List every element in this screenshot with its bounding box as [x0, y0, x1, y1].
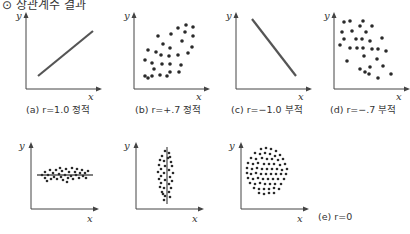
caption-c: (c) r=−1.0 부적 [231, 102, 303, 116]
plot-b-svg: y x [130, 12, 210, 92]
plot-e2-svg: y x [132, 142, 204, 212]
x-axis-label: x [396, 91, 402, 102]
plot-b-positive-moderate: y x [130, 12, 210, 92]
x-axis-label: x [88, 91, 94, 102]
plot-d-negative-moderate: y x [330, 12, 410, 92]
y-axis-label: y [123, 140, 130, 151]
caption-a: (a) r=1.0 정적 [26, 102, 90, 116]
plot-e-horizontal-band: y x [27, 142, 99, 212]
caption-d: (d) r=−.7 부적 [330, 102, 396, 116]
section-header: ⊙ 상관계수 결과 [2, 0, 86, 12]
plot-a-svg: y x [22, 12, 102, 92]
x-axis-label: x [196, 91, 202, 102]
plot-e3-svg: y x [237, 142, 309, 212]
plot-c-negative-perfect: y x [232, 12, 312, 92]
plot-e1-svg: y x [27, 142, 99, 212]
plot-e-vertical-band: y x [132, 142, 204, 212]
plot-c-svg: y x [232, 12, 312, 92]
plot-e-circle-cloud: y x [237, 142, 309, 212]
caption-b: (b) r=+.7 정적 [135, 102, 201, 116]
plot-a-positive-perfect: y x [22, 12, 102, 92]
x-axis-label: x [192, 213, 198, 224]
plot-d-svg: y x [330, 12, 410, 92]
caption-e: (e) r=0 [318, 211, 352, 222]
x-axis-label: x [297, 213, 303, 224]
y-axis-label: y [18, 140, 25, 151]
y-axis-label: y [225, 10, 232, 21]
x-axis-label: x [298, 91, 304, 102]
y-axis-label: y [228, 140, 235, 151]
y-axis-label: y [323, 10, 330, 21]
x-axis-label: x [87, 213, 93, 224]
y-axis-label: y [15, 10, 22, 21]
y-axis-label: y [123, 10, 130, 21]
